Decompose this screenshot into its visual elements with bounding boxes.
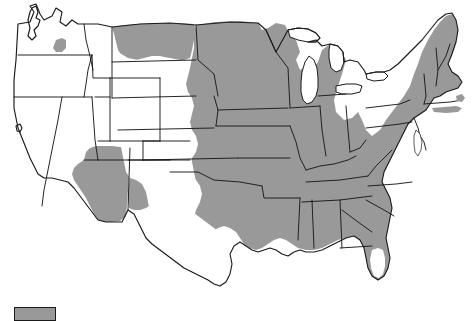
us-choropleth-map [0,0,472,300]
state-line-id-wy-west [92,55,110,78]
legend-swatch-shaded [14,307,56,321]
lake-huron [329,44,344,72]
state-line-ca-nv [42,97,62,206]
chesapeake-bay [414,130,422,156]
shaded-arizona [72,146,131,222]
map-svg [0,0,472,300]
lake-michigan [301,56,318,104]
shaded-washington-central [53,38,66,52]
map-legend [0,300,472,321]
shaded-region-layer [53,14,462,280]
cape-cod [456,94,465,102]
map-figure [0,0,472,321]
shaded-montana-east [112,23,196,60]
long-island [432,106,462,113]
lake-erie [336,84,362,94]
state-line-ut-box [95,97,110,141]
